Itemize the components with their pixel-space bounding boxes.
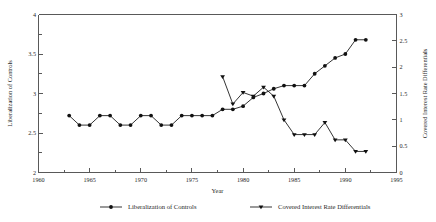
series-1	[67, 38, 367, 127]
legend-marker	[109, 205, 113, 209]
data-point	[221, 107, 225, 111]
data-point	[88, 123, 92, 127]
data-point	[313, 72, 317, 76]
x-axis-title: Year	[212, 187, 225, 194]
data-point	[323, 64, 327, 68]
x-tick-label: 1990	[339, 176, 351, 183]
data-point	[272, 87, 276, 91]
x-tick-label: 1985	[288, 176, 300, 183]
data-point	[262, 92, 266, 96]
data-point	[129, 123, 133, 127]
y2-tick-label: 1	[400, 116, 403, 123]
series-layer	[67, 38, 368, 154]
data-point	[353, 150, 358, 154]
data-point	[108, 114, 112, 118]
data-point	[149, 114, 153, 118]
y-axis-left-ticks: 22.533.54	[28, 11, 43, 176]
data-point	[333, 138, 338, 142]
y-axis-title: Liberalization of Controls	[6, 60, 13, 127]
x-tick-label: 1960	[32, 176, 44, 183]
legend-marker	[259, 206, 264, 210]
x-tick-label: 1965	[83, 176, 95, 183]
data-point	[292, 84, 296, 88]
chart-figure: 19601965197019751980198519901995 22.533.…	[0, 0, 436, 222]
data-point	[363, 150, 368, 154]
y2-tick-label: 0.5	[400, 142, 408, 149]
data-point	[354, 38, 358, 42]
y2-tick-label: 2	[400, 63, 403, 70]
series-line-1	[69, 40, 366, 125]
data-point	[343, 52, 347, 56]
y-tick-label: 3	[33, 90, 36, 97]
data-point	[180, 114, 184, 118]
data-point	[302, 133, 307, 137]
plot-frame	[39, 15, 397, 173]
data-point	[231, 107, 235, 111]
data-point	[210, 114, 214, 118]
data-point	[364, 38, 368, 42]
data-point	[220, 75, 225, 79]
y-axis-right-ticks: 00.511.522.53	[392, 11, 407, 176]
data-point	[118, 123, 122, 127]
data-point	[333, 56, 337, 60]
y2-tick-label: 1.5	[400, 90, 408, 97]
data-point	[271, 95, 276, 99]
legend-item-2: Covered Interest Rate Differentials	[250, 203, 371, 210]
data-point	[139, 114, 143, 118]
legend-label: Liberalization of Controls	[128, 203, 197, 210]
y-tick-label: 3.5	[28, 50, 36, 57]
data-point	[170, 123, 174, 127]
x-tick-label: 1995	[390, 176, 402, 183]
y2-tick-label: 3	[400, 11, 403, 18]
legend-item-1: Liberalization of Controls	[100, 203, 197, 210]
chart-canvas: 19601965197019751980198519901995 22.533.…	[0, 0, 436, 222]
x-tick-label: 1980	[237, 176, 249, 183]
x-tick-label: 1975	[186, 176, 198, 183]
data-point	[78, 123, 82, 127]
data-point	[241, 104, 245, 108]
data-point	[292, 133, 297, 137]
y-tick-label: 2.5	[28, 129, 36, 136]
data-point	[282, 84, 286, 88]
data-point	[230, 103, 235, 107]
x-tick-label: 1970	[135, 176, 147, 183]
data-point	[67, 114, 71, 118]
data-point	[159, 123, 163, 127]
y2-axis-title: Covered Interest Rate Differentials	[421, 48, 428, 138]
chart-legend: Liberalization of ControlsCovered Intere…	[100, 203, 371, 210]
data-point	[303, 84, 307, 88]
data-point	[200, 114, 204, 118]
x-axis-ticks: 19601965197019751980198519901995	[32, 168, 402, 183]
y2-tick-label: 0	[400, 169, 403, 176]
y2-tick-label: 2.5	[400, 37, 408, 44]
data-point	[190, 114, 194, 118]
y-tick-label: 2	[33, 169, 36, 176]
legend-label: Covered Interest Rate Differentials	[278, 203, 371, 210]
data-point	[312, 133, 317, 137]
y-tick-label: 4	[33, 11, 36, 18]
data-point	[98, 114, 102, 118]
